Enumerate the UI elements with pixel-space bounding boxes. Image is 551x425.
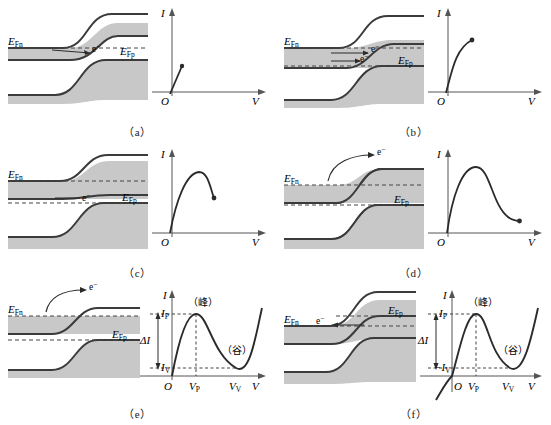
band-diagram-e: EFn EFp e− bbox=[7, 282, 140, 378]
label-efp-sub-f: Fp bbox=[395, 309, 403, 318]
y-axis-arrow-e bbox=[169, 290, 175, 298]
caption-f: （f） bbox=[276, 405, 551, 421]
panel-a-graphics: EFn EFp e− I V O bbox=[0, 0, 275, 141]
ip-label-f: IP bbox=[438, 307, 447, 321]
x-axis-arrow-f bbox=[534, 373, 542, 379]
y-axis-arrow-f bbox=[449, 290, 455, 298]
panel-c: EFn EFp e− I V O （c） bbox=[0, 141, 275, 282]
valley-label-e: （谷） bbox=[222, 345, 252, 356]
valley-label-f: （谷） bbox=[498, 345, 528, 356]
electron-label-d: e− bbox=[377, 145, 385, 157]
n-conduction-fill-d bbox=[284, 169, 424, 185]
band-diagram-b: EFn EFp e− e− bbox=[283, 16, 424, 108]
ip-label-e: IP bbox=[160, 307, 169, 321]
vv-sub-f: V bbox=[509, 385, 515, 394]
x-axis-arrow-d bbox=[534, 230, 542, 236]
origin-label-a: O bbox=[161, 95, 169, 107]
panel-d: EFn EFp e− I V O （d） bbox=[276, 141, 551, 282]
electron-arrow-e bbox=[46, 290, 84, 312]
panel-d-graphics: EFn EFp e− I V O bbox=[276, 141, 551, 282]
neg-iv-label-f: −IV bbox=[434, 361, 451, 375]
iv-plot-f: I V O ΔI IP −IV VP VV （峰） （谷） bbox=[417, 289, 542, 400]
ip-sub-f: P bbox=[443, 312, 447, 321]
vp-sub-e: P bbox=[196, 385, 200, 394]
electron-label-c: e− bbox=[82, 191, 90, 203]
iv-plot-c: I V O bbox=[152, 148, 266, 248]
axis-label-I-c: I bbox=[160, 148, 166, 160]
operating-point-a bbox=[180, 64, 184, 68]
ip-sub-e: P bbox=[165, 312, 169, 321]
caption-c: （c） bbox=[0, 264, 275, 280]
band-diagram-a: EFn EFp e− bbox=[7, 0, 148, 104]
band-diagram-f: EFn EFp e− bbox=[283, 292, 416, 384]
iv-plot-e: I V O ΔI IP IV VP VV （峰） （谷） bbox=[139, 289, 266, 394]
x-axis-arrow-e bbox=[258, 373, 266, 379]
electron-arrowhead-e bbox=[80, 287, 87, 293]
electron-arrowhead-d bbox=[368, 152, 375, 158]
peak-label-f: （峰） bbox=[468, 297, 498, 308]
label-efp-sub-e: Fp bbox=[119, 333, 127, 342]
label-efn-sub-f: Fn bbox=[291, 318, 299, 327]
y-axis-arrow-b bbox=[445, 8, 451, 16]
electron-label-a: e− bbox=[92, 42, 100, 54]
iv-label-e: IV bbox=[160, 361, 171, 375]
axis-label-I-b: I bbox=[436, 7, 442, 19]
panel-c-graphics: EFn EFp e− I V O bbox=[0, 141, 275, 282]
axis-label-V-e: V bbox=[252, 380, 260, 392]
label-efp-sub-a: Fp bbox=[127, 50, 135, 59]
vp-sub-f: P bbox=[475, 385, 479, 394]
delta-i-label-f: ΔI bbox=[417, 334, 429, 346]
caption-e: （e） bbox=[0, 405, 275, 421]
iv-curve-d bbox=[447, 167, 519, 233]
vp-label-e: VP bbox=[189, 380, 200, 394]
label-efn-c: EFn bbox=[7, 168, 23, 182]
x-axis-arrow-b bbox=[534, 89, 542, 95]
label-efn-sub-c: Fn bbox=[15, 173, 23, 182]
label-efp-a: EFp bbox=[119, 45, 135, 59]
p-valence-fill-d bbox=[284, 205, 424, 249]
axis-label-I-a: I bbox=[160, 7, 166, 19]
n-fermi-sea-e bbox=[8, 316, 140, 334]
caption-a: （a） bbox=[0, 123, 275, 139]
operating-point-d bbox=[517, 219, 522, 224]
origin-label-e: O bbox=[164, 380, 172, 392]
vv-label-f: VV bbox=[502, 380, 515, 394]
origin-label-b: O bbox=[437, 95, 445, 107]
label-efp-sub-c: Fp bbox=[129, 196, 137, 205]
panel-e-graphics: EFn EFp e− I V O bbox=[0, 282, 275, 425]
vv-label-e: VV bbox=[229, 380, 242, 394]
axis-label-V-c: V bbox=[252, 236, 260, 248]
operating-point-c bbox=[212, 196, 217, 201]
x-axis-arrow-a bbox=[258, 89, 266, 95]
iv-plot-a: I V O bbox=[152, 7, 266, 107]
iv-plot-b: I V O bbox=[428, 7, 542, 107]
panel-f: EFn EFp e− I V O ΔI IP bbox=[276, 282, 551, 423]
p-valence-fill-e bbox=[8, 340, 140, 378]
label-efn-e: EFn bbox=[7, 303, 23, 317]
iv-curve-b bbox=[446, 40, 472, 93]
label-efn-sub-e: Fn bbox=[15, 308, 23, 317]
band-diagram-c: EFn EFp e− bbox=[7, 155, 148, 249]
delta-i-label-e: ΔI bbox=[139, 334, 151, 346]
axis-label-I-e: I bbox=[162, 289, 168, 301]
delta-i-arrow-down-e bbox=[156, 363, 161, 370]
axis-label-I-d: I bbox=[436, 148, 442, 160]
label-efp-sub-d: Fp bbox=[401, 198, 409, 207]
label-efn-sub-b: Fn bbox=[291, 40, 299, 49]
axis-label-I-f: I bbox=[442, 289, 448, 301]
label-efn-b: EFn bbox=[283, 35, 299, 49]
y-axis-arrow-a bbox=[169, 8, 175, 16]
vp-label-f: VP bbox=[468, 380, 479, 394]
label-efn-sub-a: Fn bbox=[15, 40, 23, 49]
origin-label-d: O bbox=[437, 236, 445, 248]
axis-label-V-b: V bbox=[528, 95, 536, 107]
vv-sub-e: V bbox=[236, 385, 242, 394]
iv-curve-c bbox=[170, 172, 214, 233]
tunnel-diode-figure: EFn EFp e− I V O （a） bbox=[0, 0, 551, 425]
electron-label-e: e− bbox=[89, 282, 97, 292]
iv-plot-d: I V O bbox=[428, 148, 542, 248]
label-efn-a: EFn bbox=[7, 35, 23, 49]
y-axis-arrow-d bbox=[445, 149, 451, 157]
origin-label-f: O bbox=[454, 380, 462, 392]
band-diagram-d: EFn EFp e− bbox=[283, 145, 424, 249]
